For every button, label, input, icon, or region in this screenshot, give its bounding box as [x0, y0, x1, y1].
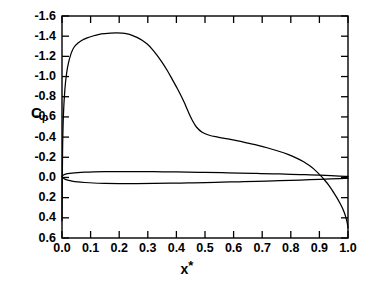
airfoil-section-lower-outline [62, 176, 348, 183]
plot-canvas [0, 0, 374, 282]
y-axis-ticks [62, 16, 348, 238]
airfoil-section-upper-outline [62, 172, 348, 177]
cp-distribution-figure: Cp x* -1.6-1.4-1.2-1.0-0.8-0.6-0.4-0.20.… [0, 0, 374, 282]
x-axis-ticks [62, 16, 348, 238]
axis-frame [62, 16, 348, 238]
upper-surface-pressure-coefficient [62, 33, 348, 228]
data-curves [62, 33, 348, 228]
